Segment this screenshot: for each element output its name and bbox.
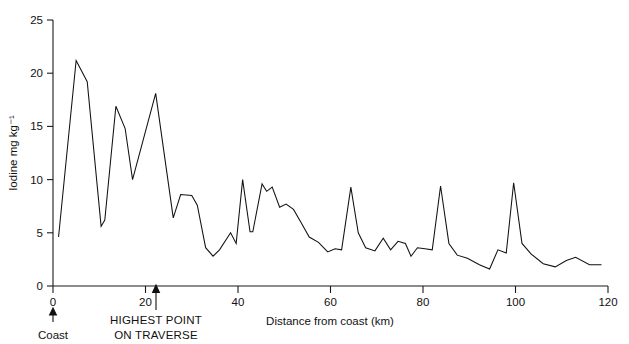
chart-figure: 0 5 10 15 20 25 Iodine mg kg⁻¹ 0 20 40 6…: [0, 0, 629, 344]
x-tick-label-100: 100: [506, 296, 525, 308]
x-tick-label-60: 60: [324, 296, 337, 308]
y-tick-label-15: 15: [30, 120, 43, 132]
coast-annotation: Coast: [38, 308, 69, 341]
x-tick-label-20: 20: [139, 296, 152, 308]
highest-point-label-line1: HIGHEST POINT: [110, 314, 202, 326]
y-tick-label-5: 5: [37, 227, 43, 239]
iodine-distance-line-chart: 0 5 10 15 20 25 Iodine mg kg⁻¹ 0 20 40 6…: [0, 0, 629, 344]
y-tick-label-0: 0: [37, 280, 43, 292]
x-axis-title: Distance from coast (km): [266, 315, 394, 327]
y-tick-label-25: 25: [30, 14, 43, 26]
y-axis-ticks: [47, 20, 53, 286]
highest-point-annotation: HIGHEST POINT ON TRAVERSE: [110, 285, 202, 341]
y-axis-title: Iodine mg kg⁻¹: [7, 115, 19, 191]
iodine-series-line: [59, 60, 602, 269]
highest-point-label-line2: ON TRAVERSE: [114, 329, 198, 341]
x-tick-label-80: 80: [417, 296, 430, 308]
y-tick-label-10: 10: [30, 174, 43, 186]
coast-arrow-icon: [50, 308, 57, 315]
x-tick-label-120: 120: [598, 296, 617, 308]
x-tick-label-0: 0: [50, 296, 56, 308]
x-tick-label-40: 40: [232, 296, 245, 308]
y-tick-label-20: 20: [30, 67, 43, 79]
coast-annotation-label: Coast: [38, 329, 69, 341]
x-axis-ticks: [53, 286, 608, 293]
